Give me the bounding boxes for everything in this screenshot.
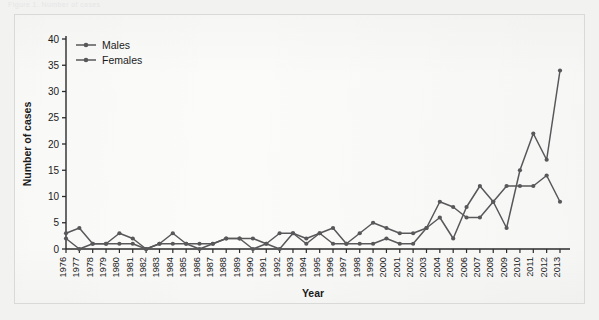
y-tick-label: 15 xyxy=(48,165,60,176)
x-tick-label: 1978 xyxy=(85,257,95,277)
x-tick-label: 1991 xyxy=(258,257,268,277)
data-point xyxy=(545,173,549,177)
data-point xyxy=(545,158,549,162)
x-tick-label: 1985 xyxy=(178,257,188,277)
data-point xyxy=(64,236,68,240)
data-point xyxy=(117,242,121,246)
x-tick-label: 1996 xyxy=(325,257,335,277)
data-point xyxy=(117,231,121,235)
x-tick-label: 1999 xyxy=(365,257,375,277)
y-tick-label: 20 xyxy=(48,139,60,150)
data-point xyxy=(184,242,188,246)
data-point xyxy=(371,242,375,246)
data-point xyxy=(331,226,335,230)
x-tick-label: 1983 xyxy=(151,257,161,277)
data-point xyxy=(411,242,415,246)
legend-label: Females xyxy=(102,54,142,66)
data-point xyxy=(558,68,562,72)
data-point xyxy=(304,242,308,246)
data-point xyxy=(478,184,482,188)
x-tick-label: 1977 xyxy=(71,257,81,277)
legend: MalesFemales xyxy=(76,39,142,66)
x-tick-label: 2011 xyxy=(525,257,535,277)
data-point xyxy=(131,236,135,240)
data-point xyxy=(77,226,81,230)
data-point xyxy=(531,184,535,188)
data-point xyxy=(211,242,215,246)
y-tick-label: 0 xyxy=(53,244,59,255)
x-tick-label: 2003 xyxy=(418,257,428,277)
data-point xyxy=(358,231,362,235)
x-tick-label: 1990 xyxy=(245,257,255,277)
x-tick-label: 1998 xyxy=(352,257,362,277)
x-tick-label: 1981 xyxy=(125,257,135,277)
y-tick-label: 25 xyxy=(48,112,60,123)
x-tick-label: 1989 xyxy=(232,257,242,277)
data-point xyxy=(424,226,428,230)
data-point xyxy=(464,205,468,209)
data-point xyxy=(398,231,402,235)
y-tick-label: 10 xyxy=(48,191,60,202)
data-point xyxy=(331,242,335,246)
line-chart: 0510152025303540Number of cases197619771… xyxy=(15,15,586,305)
x-tick-label: 2013 xyxy=(552,257,562,277)
data-point xyxy=(278,231,282,235)
data-point xyxy=(531,131,535,135)
y-tick-label: 30 xyxy=(48,86,60,97)
x-tick-label: 2005 xyxy=(445,257,455,277)
data-point xyxy=(451,205,455,209)
data-point xyxy=(358,242,362,246)
x-tick-label: 2007 xyxy=(472,257,482,277)
x-tick-label: 2001 xyxy=(392,257,402,277)
x-tick-label: 1993 xyxy=(285,257,295,277)
data-point xyxy=(371,221,375,225)
data-point xyxy=(464,215,468,219)
figure-panel: 0510152025303540Number of cases197619771… xyxy=(14,14,585,304)
legend-marker xyxy=(84,43,89,48)
data-point xyxy=(451,236,455,240)
data-point xyxy=(518,184,522,188)
x-tick-label: 2006 xyxy=(459,257,469,277)
data-point xyxy=(144,247,148,251)
x-tick-label: 2002 xyxy=(405,257,415,277)
x-tick-label: 1986 xyxy=(192,257,202,277)
y-tick-label: 40 xyxy=(48,34,60,45)
x-tick-label: 1987 xyxy=(205,257,215,277)
x-tick-label: 1982 xyxy=(138,257,148,277)
data-point xyxy=(171,231,175,235)
data-point xyxy=(64,231,68,235)
data-point xyxy=(131,242,135,246)
x-axis-title: Year xyxy=(302,287,324,299)
data-point xyxy=(504,184,508,188)
series-line xyxy=(66,71,560,250)
series-females xyxy=(64,68,562,251)
legend-marker xyxy=(84,58,89,63)
data-point xyxy=(171,242,175,246)
data-point xyxy=(224,236,228,240)
x-tick-label: 2000 xyxy=(378,257,388,277)
data-point xyxy=(264,242,268,246)
data-point xyxy=(304,236,308,240)
data-point xyxy=(478,215,482,219)
x-tick-label: 1995 xyxy=(312,257,322,277)
y-tick-label: 5 xyxy=(53,217,59,228)
x-tick-label: 1992 xyxy=(272,257,282,277)
x-tick-label: 1994 xyxy=(298,257,308,277)
data-point xyxy=(237,236,241,240)
data-point xyxy=(344,242,348,246)
data-point xyxy=(278,247,282,251)
x-tick-label: 1976 xyxy=(58,257,68,277)
x-tick-label: 1979 xyxy=(98,257,108,277)
x-tick-label: 1997 xyxy=(338,257,348,277)
x-tick-label: 2009 xyxy=(499,257,509,277)
data-point xyxy=(91,242,95,246)
scan-top-text-fragment: Figure 1. Number of cases xyxy=(8,1,338,10)
y-tick-label: 35 xyxy=(48,60,60,71)
data-point xyxy=(411,231,415,235)
x-tick-label: 1980 xyxy=(111,257,121,277)
x-tick-label: 2008 xyxy=(485,257,495,277)
data-point xyxy=(251,236,255,240)
x-tick-label: 1988 xyxy=(218,257,228,277)
x-tick-label: 1984 xyxy=(165,257,175,277)
data-point xyxy=(504,226,508,230)
